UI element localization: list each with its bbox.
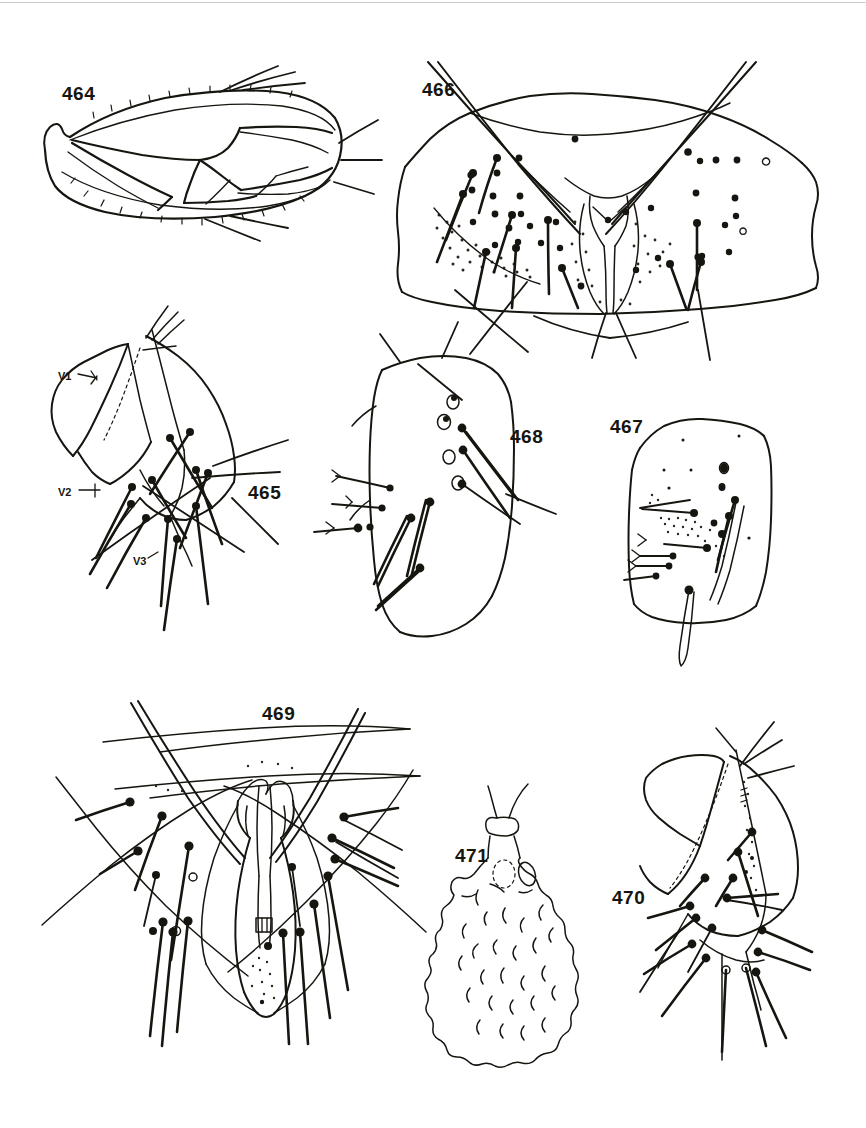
annotation-v2: V2: [58, 487, 71, 498]
illustration-plate: 464 466 465 468 467 469 471 470 V1 V2 V3: [0, 0, 866, 1128]
figure-number-467: 467: [610, 417, 643, 436]
annotation-v3: V3: [133, 556, 146, 567]
outer-valve-470: [640, 755, 728, 894]
figure-number-466: 466: [422, 80, 455, 99]
figure-number-469: 469: [262, 704, 295, 723]
figure-number-464: 464: [62, 84, 95, 103]
figure-number-468: 468: [510, 427, 543, 446]
annotation-v1: V1: [58, 371, 71, 382]
inner-valve-470: [658, 750, 798, 1060]
figure-number-465: 465: [248, 483, 281, 502]
scan-edge-top: [0, 2, 866, 3]
figure-470-drawing: [0, 0, 866, 1128]
figure-number-471: 471: [455, 846, 488, 865]
figure-number-470: 470: [612, 888, 645, 907]
